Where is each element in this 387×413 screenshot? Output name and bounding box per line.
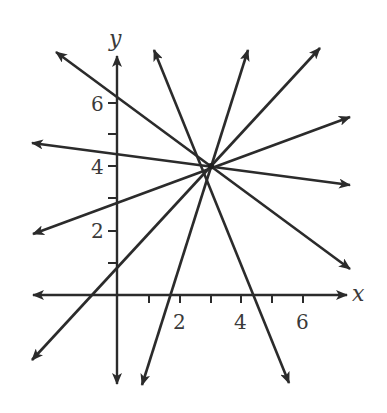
x-tick-label-2: 2: [173, 310, 186, 334]
line-c: [33, 117, 350, 234]
graph-canvas: 2 4 6 2 4 6 x y: [0, 0, 387, 413]
x-axis-label: x: [352, 281, 365, 306]
y-axis-ticks: [108, 103, 117, 263]
x-tick-label-6: 6: [296, 310, 309, 334]
y-axis-label: y: [108, 26, 122, 51]
line-e: [142, 50, 248, 385]
coordinate-plane-diagram: 2 4 6 2 4 6 x y: [0, 0, 387, 413]
x-tick-label-4: 4: [234, 310, 247, 334]
y-tick-label-6: 6: [91, 92, 104, 116]
y-tick-label-4: 4: [91, 155, 104, 179]
concurrent-lines: [32, 48, 350, 385]
intersection-point: [208, 163, 214, 169]
line-b: [32, 143, 350, 185]
y-tick-label-2: 2: [91, 219, 104, 243]
axes: [33, 56, 347, 384]
